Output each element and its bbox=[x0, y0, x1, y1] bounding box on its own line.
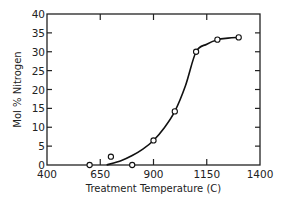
y-tick-label: 20 bbox=[32, 84, 45, 96]
data-point-marker bbox=[108, 154, 113, 159]
y-tick-label: 10 bbox=[32, 121, 45, 133]
y-tick-label: 30 bbox=[32, 46, 45, 58]
data-point-marker bbox=[236, 35, 241, 40]
data-point-marker bbox=[194, 49, 199, 54]
x-tick-label: 1400 bbox=[247, 168, 274, 180]
data-point-marker bbox=[87, 162, 92, 167]
x-axis-label: Treatment Temperature (C) bbox=[85, 183, 221, 194]
chart: 400650900115014000510152025303540 Treatm… bbox=[0, 0, 288, 198]
data-point-marker bbox=[172, 109, 177, 114]
data-points bbox=[87, 35, 241, 168]
axes: 400650900115014000510152025303540 bbox=[32, 8, 274, 180]
y-tick-label: 35 bbox=[32, 27, 45, 39]
fitted-curve bbox=[107, 37, 239, 165]
y-axis-label: Mol % Nitrogen bbox=[12, 51, 23, 127]
data-point-marker bbox=[130, 162, 135, 167]
x-tick-label: 1150 bbox=[193, 168, 220, 180]
y-tick-label: 5 bbox=[38, 140, 45, 152]
x-tick-label: 900 bbox=[143, 168, 163, 180]
data-point-marker bbox=[215, 37, 220, 42]
y-tick-label: 0 bbox=[38, 159, 45, 171]
x-tick-label: 650 bbox=[90, 168, 110, 180]
curve-line bbox=[107, 37, 239, 165]
data-point-marker bbox=[151, 138, 156, 143]
y-tick-label: 25 bbox=[32, 65, 45, 77]
y-tick-label: 15 bbox=[32, 102, 45, 114]
y-tick-label: 40 bbox=[32, 8, 45, 20]
